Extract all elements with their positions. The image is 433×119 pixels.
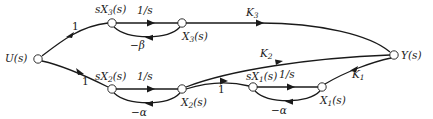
arrow-icon: [287, 84, 295, 91]
edge-x2-to-sx2: [114, 93, 180, 107]
edge-sx1-to-x1: [257, 84, 318, 91]
arrow-icon: [66, 32, 74, 38]
gain-x3-y: K3: [245, 6, 259, 20]
gain-sx3-x3: 1/s: [137, 4, 153, 16]
node-sx2: [108, 85, 116, 93]
arrow-icon: [147, 20, 155, 27]
label-sx1: sX1(s): [246, 70, 277, 84]
node-y: [390, 51, 398, 59]
label-u: U(s): [5, 52, 27, 64]
gain-sx1-x1: 1/s: [279, 68, 295, 80]
label-x3: X3(s): [181, 30, 208, 44]
label-x1: X1(s): [319, 94, 346, 108]
gain-x3-sx3: −β: [130, 39, 145, 51]
node-x1: [318, 83, 326, 91]
arrow-icon: [76, 68, 84, 75]
edge-x3-to-sx3: [114, 27, 180, 41]
gain-x1-y: K1: [351, 68, 365, 82]
gain-sx2-x2: 1/s: [137, 70, 153, 82]
node-x2: [178, 85, 186, 93]
node-sx3: [108, 19, 116, 27]
node-x3: [178, 19, 186, 27]
signal-flow-graph: U(s) Y(s) sX3(s) X3(s) sX2(s) X2(s) sX1(…: [0, 0, 433, 119]
edge-x1-to-sx1: [255, 91, 320, 105]
edge-x3-to-y: [186, 20, 390, 53]
label-sx2: sX2(s): [95, 70, 126, 84]
edge-sx3-to-x3: [116, 20, 178, 27]
edge-sx2-to-x2: [116, 86, 178, 93]
gain-u-sx3: 1: [72, 20, 79, 32]
node-u: [34, 55, 42, 63]
arrow-icon: [256, 20, 264, 27]
gain-x2-sx1: 1: [218, 83, 225, 95]
gain-x2-y: K2: [259, 47, 273, 61]
label-sx3: sX3(s): [95, 3, 126, 17]
node-sx1: [249, 83, 257, 91]
gain-u-sx2: 1: [82, 75, 89, 87]
label-x2: X2(s): [180, 96, 207, 110]
gain-x2-sx2: −α: [131, 106, 147, 118]
label-y: Y(s): [401, 49, 422, 61]
gain-x1-sx1: −α: [271, 104, 287, 116]
arrow-icon: [147, 86, 155, 93]
arrow-icon: [145, 35, 153, 41]
